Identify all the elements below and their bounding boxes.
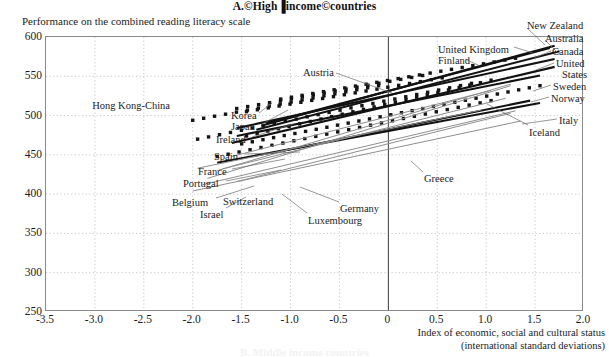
x-tick-label: 0 [384, 313, 390, 325]
country-label: Iceland [529, 127, 560, 138]
country-label: Germany [340, 203, 379, 214]
country-label: Belgium [172, 197, 208, 208]
country-label: United Kingdom [438, 44, 509, 55]
country-label: France [198, 166, 227, 177]
x-tick-label: -3.5 [36, 313, 54, 325]
country-label: Australia [545, 33, 584, 44]
country-label: New Zealand [527, 20, 583, 31]
x-tick-label: 1.5 [527, 313, 541, 325]
page-title: A.©High▐income©countries [0, 0, 609, 12]
next-panel-ghost-title: B. Middle income countries [0, 346, 609, 357]
x-tick-label: 2.0 [576, 313, 590, 325]
x-tick-label: -0.5 [329, 313, 347, 325]
y-tick-label: 400 [0, 187, 42, 199]
country-label: Ireland [216, 134, 246, 145]
y-tick-label: 600 [0, 30, 42, 42]
country-label: Hong Kong-China [92, 100, 170, 111]
x-tick-label: -3.0 [85, 313, 103, 325]
y-tick-label: 300 [0, 266, 42, 278]
country-label: Sweden [553, 81, 586, 92]
country-label: Finland [438, 55, 470, 66]
country-label: Canada [552, 46, 584, 57]
country-label: States [562, 69, 587, 80]
country-label: Switzerland [223, 196, 273, 207]
y-tick-label: 550 [0, 69, 42, 81]
country-label: Greece [424, 173, 454, 184]
country-label: United [556, 58, 585, 69]
y-tick-label: 500 [0, 109, 42, 121]
country-label: Portugal [183, 178, 219, 189]
country-label: Israel [200, 209, 223, 220]
chart-root: A.©High▐income©countries Performance on … [0, 0, 609, 357]
x-tick-label: 1.0 [478, 313, 492, 325]
y-axis-caption: Performance on the combined reading lite… [22, 15, 250, 27]
country-label: Norway [551, 93, 585, 104]
x-tick-label: 0.5 [429, 313, 443, 325]
country-label: Italy [559, 115, 578, 126]
country-label: Korea [231, 110, 257, 121]
x-axis-caption-line1: Index of economic, social and cultural s… [418, 327, 605, 340]
y-tick-label: 350 [0, 226, 42, 238]
country-label: Japan [231, 121, 255, 132]
x-tick-label: -2.5 [134, 313, 152, 325]
country-label: Spain [214, 151, 238, 162]
x-tick-label: -1.5 [232, 313, 250, 325]
country-label: Austria [303, 67, 334, 78]
country-label: Luxembourg [308, 215, 362, 226]
y-tick-label: 450 [0, 148, 42, 160]
x-tick-label: -2.0 [183, 313, 201, 325]
x-tick-label: -1.0 [280, 313, 298, 325]
